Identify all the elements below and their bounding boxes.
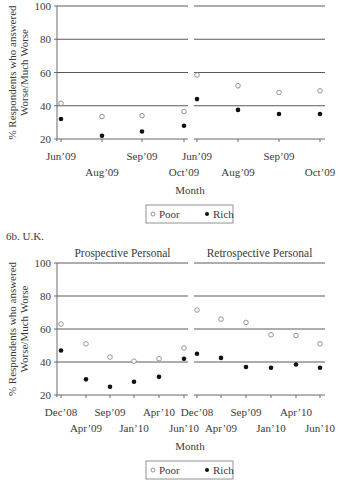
poor-data-point — [59, 322, 64, 327]
figure-label: 6b. U.K. — [6, 230, 44, 242]
y-tick-label: 60 — [40, 323, 52, 335]
poor-data-point — [236, 84, 241, 89]
legend-poor-icon — [151, 212, 155, 216]
rich-data-point — [132, 380, 137, 385]
rich-data-point — [157, 375, 162, 380]
x-tick-label: Dec’08 — [45, 406, 78, 418]
rich-data-point — [108, 384, 113, 389]
x-tick-label: Apr’09 — [205, 422, 238, 434]
x-axis-title: Month — [175, 184, 205, 196]
x-tick-label: Jun’10 — [169, 422, 199, 434]
rich-data-point — [182, 356, 187, 361]
x-tick-label: Jun’09 — [182, 150, 212, 162]
legend-rich-icon — [205, 468, 209, 472]
rich-data-point — [219, 356, 224, 361]
x-tick-label: Apr’09 — [70, 422, 103, 434]
poor-data-point — [84, 342, 89, 347]
legend-rich-label: Rich — [213, 464, 234, 476]
rich-data-point — [195, 351, 200, 356]
poor-data-point — [219, 317, 224, 322]
y-axis-label: % Respondents who answeredWorse/Much Wor… — [6, 5, 30, 140]
x-tick-label: Jun’09 — [46, 150, 76, 162]
x-tick-label: Apr’10 — [280, 406, 313, 418]
chart-canvas: 20406080100% Respondents who answeredWor… — [0, 0, 339, 484]
poor-data-point — [244, 320, 249, 325]
poor-data-point — [318, 342, 323, 347]
legend-poor-label: Poor — [159, 208, 180, 220]
poor-data-point — [269, 332, 274, 337]
poor-data-point — [294, 333, 299, 338]
legend-poor-icon — [151, 468, 155, 472]
x-tick-label: Jun’10 — [305, 422, 335, 434]
x-tick-label: Oct’09 — [169, 166, 200, 178]
x-tick-label: Dec’08 — [181, 406, 214, 418]
rich-data-point — [195, 97, 200, 102]
y-tick-label: 60 — [40, 67, 52, 79]
rich-data-point — [59, 348, 64, 353]
panel-title: Prospective Personal — [74, 247, 170, 260]
legend-poor-label: Poor — [159, 464, 180, 476]
y-tick-label: 80 — [40, 290, 52, 302]
legend-rich-label: Rich — [213, 208, 234, 220]
poor-data-point — [132, 359, 137, 364]
x-tick-label: Aug’09 — [221, 166, 255, 178]
rich-data-point — [59, 117, 64, 122]
y-axis-label: % Respondents who answeredWorse/Much Wor… — [6, 261, 30, 396]
poor-data-point — [318, 88, 323, 93]
x-tick-label: Jan’10 — [256, 422, 286, 434]
rich-data-point — [244, 365, 249, 370]
y-tick-label: 20 — [40, 389, 52, 401]
poor-data-point — [157, 356, 162, 361]
rich-data-point — [236, 108, 241, 113]
rich-data-point — [182, 123, 187, 128]
y-tick-label: 80 — [40, 33, 52, 45]
rich-data-point — [84, 377, 89, 382]
rich-data-point — [318, 112, 323, 117]
poor-data-point — [182, 109, 187, 114]
poor-data-point — [108, 355, 113, 360]
y-tick-label: 100 — [35, 257, 52, 269]
rich-data-point — [100, 133, 105, 138]
panel-title: Retrospective Personal — [207, 247, 313, 260]
x-tick-label: Apr’10 — [143, 406, 176, 418]
x-tick-label: Sep’09 — [263, 150, 295, 162]
x-tick-label: Aug’09 — [85, 166, 119, 178]
x-tick-label: Sep’09 — [126, 150, 158, 162]
poor-data-point — [100, 114, 105, 119]
x-tick-label: Sep’09 — [230, 406, 262, 418]
x-tick-label: Jan’10 — [119, 422, 149, 434]
poor-data-point — [140, 113, 145, 118]
poor-data-point — [182, 346, 187, 351]
poor-data-point — [195, 308, 200, 313]
y-tick-label: 100 — [35, 0, 52, 12]
x-axis-title: Month — [175, 440, 205, 452]
rich-data-point — [269, 365, 274, 370]
legend-rich-icon — [205, 212, 209, 216]
y-tick-label: 40 — [40, 356, 52, 368]
x-tick-label: Sep’09 — [94, 406, 126, 418]
rich-data-point — [140, 129, 145, 134]
poor-data-point — [195, 73, 200, 78]
rich-data-point — [318, 365, 323, 370]
y-tick-label: 20 — [40, 133, 52, 145]
x-tick-label: Oct’09 — [305, 166, 336, 178]
rich-data-point — [294, 362, 299, 367]
rich-data-point — [277, 112, 282, 117]
poor-data-point — [59, 101, 64, 106]
poor-data-point — [277, 90, 282, 95]
y-tick-label: 40 — [40, 100, 52, 112]
